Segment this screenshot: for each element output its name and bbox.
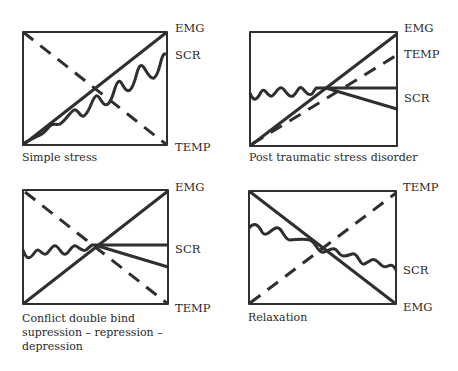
label-emg: EMG	[175, 181, 204, 194]
caption-line: depression	[22, 340, 163, 354]
caption-line: Conflict double bind	[22, 312, 163, 326]
scr-line	[24, 54, 166, 143]
label-temp: TEMP	[175, 302, 211, 315]
caption-relaxation: Relaxation	[248, 311, 307, 325]
label-emg: EMG	[403, 301, 432, 314]
label-scr: SCR	[175, 243, 200, 256]
label-temp: TEMP	[175, 141, 211, 154]
panel-relaxation	[249, 191, 396, 304]
label-scr: SCR	[403, 264, 428, 277]
label-temp: TEMP	[404, 48, 440, 61]
label-emg: EMG	[404, 22, 433, 35]
scr-line-decline	[98, 246, 168, 267]
panel-conflict	[23, 190, 168, 304]
panel-ptsd	[250, 32, 397, 146]
scr-line-flat	[250, 88, 397, 100]
panel-simple-stress	[23, 32, 167, 145]
label-scr: SCR	[175, 49, 200, 62]
label-emg: EMG	[175, 22, 204, 35]
caption-line: supression – repression –	[22, 326, 163, 340]
caption-ptsd: Post traumatic stress disorder	[249, 151, 418, 165]
label-scr: SCR	[404, 92, 429, 105]
temp-line	[252, 55, 397, 144]
emg-line	[250, 34, 397, 146]
scr-line-decline	[326, 88, 397, 109]
caption-simple-stress: Simple stress	[22, 151, 97, 165]
label-temp: TEMP	[403, 181, 439, 194]
caption-conflict: Conflict double bind supression – repres…	[22, 312, 163, 354]
